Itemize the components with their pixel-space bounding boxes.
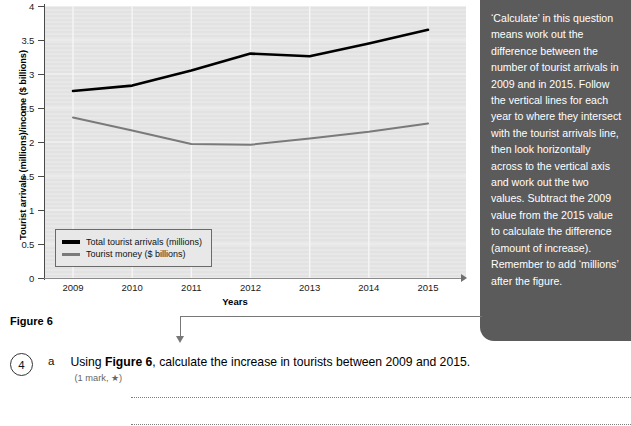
question-row: 4 a Using Figure 6, calculate the increa… [10,355,480,386]
x-tick-label: 2015 [406,282,450,293]
y-tick-label: 2 [0,137,34,148]
y-axis-line [44,4,45,280]
x-axis-line [44,278,462,279]
legend-item: Tourist money ($ billions) [62,249,202,259]
x-axis-arrow-icon [461,274,467,282]
legend-swatch-arrivals [62,240,80,244]
question-text-figure-ref: Figure 6 [105,355,152,369]
question-letter: a [48,355,54,367]
answer-line[interactable] [131,397,631,398]
y-tick-label: 3 [0,69,34,80]
question-text-before: Using [70,355,105,369]
y-tick-mark [38,278,44,279]
legend-label-arrivals: Total tourist arrivals (millions) [86,237,202,247]
question-number-badge: 4 [10,353,33,376]
y-tick-label: 1 [0,205,34,216]
x-tick-label: 2012 [229,282,273,293]
legend-swatch-money [62,253,80,256]
callout-connector-line-vertical [180,316,181,338]
question-text: Using Figure 6, calculate the increase i… [70,355,480,386]
y-tick-label: 0.5 [0,239,34,250]
y-tick-mark [38,108,44,109]
y-tick-mark [38,142,44,143]
callout-note: ‘Calculate’ in this question means work … [480,0,631,341]
y-tick-label: 0 [0,273,34,284]
y-tick-label: 4 [0,1,34,12]
callout-arrow-icon [176,336,184,343]
answer-line[interactable] [131,424,631,425]
x-tick-label: 2010 [110,282,154,293]
y-tick-mark [38,210,44,211]
y-tick-mark [38,40,44,41]
figure-caption: Figure 6 [10,315,53,327]
y-tick-mark [38,74,44,75]
callout-connector-line [180,316,482,317]
x-tick-label: 2009 [51,282,95,293]
y-tick-label: 3.5 [0,35,34,46]
chart-legend: Total tourist arrivals (millions) Touris… [55,229,212,267]
question-marks: (1 mark, ★) [74,373,122,383]
x-tick-label: 2011 [169,282,213,293]
question-text-after: , calculate the increase in tourists bet… [152,355,470,369]
figure-6-chart: Tourist arrivals (millions)/income ($ bi… [0,0,470,312]
y-tick-label: 2.5 [0,103,34,114]
x-tick-label: 2014 [347,282,391,293]
legend-label-money: Tourist money ($ billions) [86,249,186,259]
y-tick-mark [38,244,44,245]
y-tick-label: 1.5 [0,171,34,182]
y-tick-mark [38,6,44,7]
x-tick-label: 2013 [288,282,332,293]
x-axis-title: Years [0,296,470,307]
legend-item: Total tourist arrivals (millions) [62,237,202,247]
y-tick-mark [38,176,44,177]
